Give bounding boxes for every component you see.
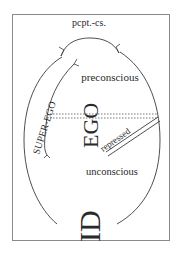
fork-superego-top-icon <box>74 59 79 66</box>
label-superego: SUPER-EGO <box>30 100 57 156</box>
label-id: ID <box>73 210 106 242</box>
label-repressed: repressed <box>98 126 132 154</box>
fork-right-top-icon <box>116 44 120 53</box>
fork-superego-bottom-icon <box>44 155 50 158</box>
fork-left-top-icon <box>59 47 64 56</box>
diagram-canvas: pcpt.-cs. preconscious unconscious SUPER… <box>0 0 178 258</box>
label-preconscious: preconscious <box>81 71 138 83</box>
label-unconscious: unconscious <box>86 166 138 177</box>
label-ego: EGO <box>78 103 103 148</box>
freud-psyche-diagram: pcpt.-cs. preconscious unconscious SUPER… <box>0 0 178 258</box>
top-dome-arc <box>61 38 119 56</box>
label-pcpt-cs: pcpt.-cs. <box>72 17 106 28</box>
